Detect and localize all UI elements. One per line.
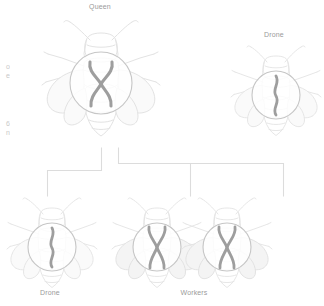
label-queen: Queen [70,2,130,11]
connector-queen-to-drone [48,148,102,196]
bee-drone-parent [228,42,324,146]
connector-queen-to-workers [119,148,284,196]
label-drone-offspring: Drone [24,288,76,297]
bee-queen [38,14,164,150]
bee-worker-2 [179,194,275,298]
label-drone-parent: Drone [248,30,300,39]
label-workers: Workers [164,288,224,297]
bee-drone-offspring [4,194,100,298]
